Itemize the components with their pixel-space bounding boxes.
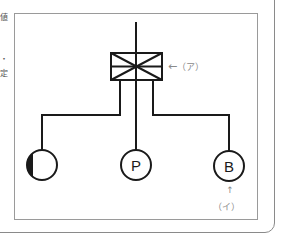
b-label: B <box>224 158 234 175</box>
left-wire <box>42 80 120 150</box>
circuit-diagram: P B <box>0 0 285 247</box>
arrow-up-icon: ↑ <box>222 185 238 195</box>
arrow-left-icon: ← <box>168 60 177 73</box>
label-i: （イ） <box>213 200 240 213</box>
p-label: P <box>131 157 141 174</box>
label-a: ←（ア） <box>168 60 204 73</box>
half-filled-icon <box>27 153 33 177</box>
right-wire <box>153 80 229 152</box>
